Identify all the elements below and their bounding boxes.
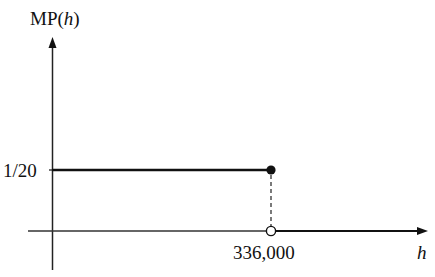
plot-area (0, 0, 435, 277)
closed-endpoint (266, 165, 275, 174)
y-axis-arrowhead (49, 37, 57, 48)
open-endpoint (266, 226, 275, 235)
x-axis-arrowhead (417, 227, 428, 235)
